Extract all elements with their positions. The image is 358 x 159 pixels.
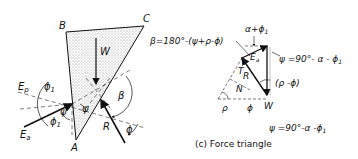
- vertex-a-label: A: [70, 142, 78, 153]
- ft-r-label: R: [243, 71, 249, 81]
- beta-leader: [236, 41, 250, 56]
- psi-equation-top: ψ =90°- α - ϕ1: [279, 54, 342, 65]
- psi-mid-label: ψ: [82, 103, 89, 114]
- ep-label: Ep: [18, 81, 29, 94]
- ft-n-label: N: [236, 84, 243, 94]
- wedge-abc: B C A: [59, 13, 150, 153]
- phi-right-label: ϕ: [126, 124, 133, 135]
- ea-label: Ea: [20, 129, 31, 142]
- ft-ea-label: Ea: [250, 52, 260, 63]
- phi1-bottom-label: ϕ1: [50, 116, 61, 129]
- force-triangle-caption: (c) Force triangle: [195, 139, 272, 149]
- psi-left-label: ψ: [60, 106, 67, 117]
- ft-phi-label: ϕ: [247, 103, 253, 113]
- beta-label: β: [117, 90, 125, 101]
- rho-minus-phi-label: (ρ -ϕ): [275, 78, 300, 88]
- weight-label: W: [100, 46, 111, 57]
- vertex-b-label: B: [59, 20, 66, 31]
- beta-equation: β=180°-(ψ+ρ-ϕ): [149, 36, 224, 46]
- alpha-phi1-label: α+ϕ1: [245, 24, 268, 35]
- phi1-top-label: ϕ1: [44, 81, 55, 94]
- vertex-c-label: C: [143, 13, 150, 24]
- r-label: R: [103, 121, 110, 132]
- wedge-force-diagram: B C A W Ea Ep R ϕ1 ϕ1 ψ ψ β ϕ β=180°-: [0, 0, 358, 159]
- ft-w-label: W: [264, 101, 274, 111]
- ft-rho-label: ρ: [222, 103, 228, 113]
- psi-equation-bottom: ψ =90°-α -ϕ1: [269, 123, 326, 134]
